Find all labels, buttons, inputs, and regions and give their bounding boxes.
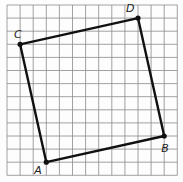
vertex-b — [162, 133, 167, 138]
diagram-canvas: ABDC — [0, 0, 183, 182]
vertex-label-a: A — [33, 164, 42, 177]
vertex-label-d: D — [126, 2, 134, 15]
vertex-label-c: C — [14, 28, 22, 41]
vertex-label-b: B — [161, 142, 169, 155]
vertex-d — [135, 16, 140, 21]
square-edges — [20, 18, 164, 162]
square-vertices — [18, 16, 167, 165]
grid-diagram: ABDC — [0, 0, 183, 182]
vertex-c — [18, 42, 23, 47]
grid — [7, 5, 177, 175]
vertex-a — [44, 160, 49, 165]
